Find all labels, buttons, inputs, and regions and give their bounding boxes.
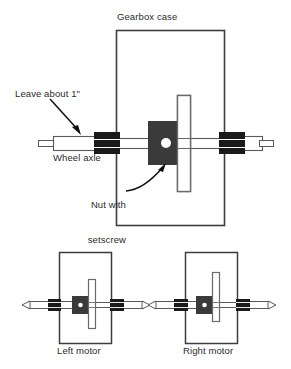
- right-motor-setscrew-hole-icon: [202, 303, 207, 308]
- right-motor-axle-left-tip: [148, 301, 156, 309]
- right-motor-axle-right-tip: [268, 301, 276, 309]
- left-motor-gear-disc: [89, 280, 96, 329]
- leave-about-arrow-head: [72, 125, 81, 135]
- assembly-diagram: Gearbox case Leave about 1" Wheel axle N…: [0, 0, 291, 369]
- leave-about-label: Leave about 1": [15, 88, 80, 100]
- left-motor-setscrew-hole-icon: [78, 303, 83, 308]
- right-collar-block: [219, 132, 245, 154]
- right-motor-gear-disc: [213, 273, 220, 322]
- left-motor-left-collar: [48, 299, 61, 311]
- right-motor-right-collar: [236, 299, 250, 311]
- left-motor-axle-left-tip: [22, 301, 30, 309]
- gearbox-case-label: Gearbox case: [117, 11, 177, 23]
- left-collar-block: [94, 132, 120, 154]
- right-motor-left-collar: [174, 299, 188, 311]
- left-motor-right-collar: [110, 299, 124, 311]
- wheel-axle-label: Wheel axle: [53, 152, 101, 164]
- axle-left-tip: [39, 141, 55, 147]
- nut-label-line-2: setscrew: [62, 234, 126, 246]
- nut-with-setscrew-label: Nut with setscrew: [62, 176, 126, 268]
- axle-left-shaft: [54, 137, 100, 151]
- right-motor-view-group: [148, 253, 276, 344]
- right-motor-label: Right motor: [183, 345, 233, 357]
- nut-label-line-1: Nut with: [62, 199, 126, 211]
- diagram-canvas: [0, 0, 291, 369]
- axle-right-tip: [260, 141, 274, 147]
- gear-disc-front-edge: [178, 96, 191, 192]
- setscrew-hole-icon: [161, 138, 171, 148]
- left-motor-label: Left motor: [57, 345, 101, 357]
